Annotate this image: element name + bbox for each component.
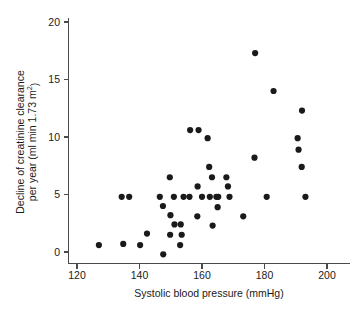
- data-point: [210, 222, 216, 228]
- data-point: [252, 50, 258, 56]
- data-points: [96, 50, 309, 257]
- data-point: [195, 127, 201, 133]
- data-point: [167, 232, 173, 238]
- data-point: [120, 241, 126, 247]
- data-point: [199, 194, 205, 200]
- data-point: [194, 213, 200, 219]
- y-axis-ticks: [64, 22, 69, 252]
- data-point: [299, 107, 305, 113]
- x-tick-label: 200: [318, 269, 336, 281]
- data-point: [209, 174, 215, 180]
- data-point: [213, 194, 219, 200]
- x-axis-tick-labels: 120140160180200: [68, 269, 336, 281]
- y-axis-title-line1: Decline of creatinine clearance: [14, 70, 26, 214]
- data-point: [178, 221, 184, 227]
- data-point: [187, 127, 193, 133]
- data-point: [270, 88, 276, 94]
- x-tick-label: 140: [131, 269, 149, 281]
- data-point: [251, 155, 257, 161]
- x-tick-label: 120: [68, 269, 86, 281]
- data-point: [160, 251, 166, 257]
- y-axis-title-line2-pre: per year (ml min 1.73 m: [26, 90, 38, 201]
- data-point: [186, 194, 192, 200]
- data-point: [215, 204, 221, 210]
- data-point: [167, 212, 173, 218]
- data-point: [157, 194, 163, 200]
- y-tick-label: 0: [54, 246, 60, 258]
- x-axis-ticks: [77, 264, 327, 269]
- y-axis-title-line2-post: ): [28, 83, 40, 87]
- data-point: [299, 164, 305, 170]
- x-axis: 120140160180200: [68, 264, 350, 282]
- data-point: [223, 174, 229, 180]
- data-point: [137, 242, 143, 248]
- data-point: [225, 183, 231, 189]
- data-point: [207, 194, 213, 200]
- y-axis-title-line2: per year (ml min 1.73 m2): [25, 83, 41, 201]
- x-tick-label: 180: [256, 269, 274, 281]
- data-point: [206, 164, 212, 170]
- y-tick-label: 5: [54, 188, 60, 200]
- data-point: [126, 194, 132, 200]
- y-axis-tick-labels: 05101520: [48, 16, 60, 258]
- data-point: [302, 194, 308, 200]
- y-axis: 05101520: [48, 16, 68, 264]
- data-point: [144, 231, 150, 237]
- data-point: [160, 203, 166, 209]
- data-point: [119, 194, 125, 200]
- x-axis-title: Systolic blood pressure (mmHg): [134, 287, 283, 299]
- data-point: [295, 147, 301, 153]
- data-point: [167, 174, 173, 180]
- data-point: [96, 242, 102, 248]
- data-point: [226, 194, 232, 200]
- data-point: [171, 194, 177, 200]
- data-point: [180, 194, 186, 200]
- scatter-plot-figure: 05101520 120140160180200 Decline of crea…: [0, 0, 356, 313]
- data-point: [171, 221, 177, 227]
- y-tick-label: 15: [48, 73, 60, 85]
- data-point: [205, 135, 211, 141]
- data-point: [240, 213, 246, 219]
- data-point: [295, 135, 301, 141]
- data-point: [264, 194, 270, 200]
- data-point: [177, 242, 183, 248]
- data-point: [179, 232, 185, 238]
- data-point: [195, 183, 201, 189]
- y-axis-title: Decline of creatinine clearance per year…: [14, 70, 40, 214]
- y-tick-label: 20: [48, 16, 60, 28]
- scatter-plot-canvas: 05101520 120140160180200 Decline of crea…: [0, 0, 356, 313]
- x-tick-label: 160: [193, 269, 211, 281]
- y-tick-label: 10: [48, 131, 60, 143]
